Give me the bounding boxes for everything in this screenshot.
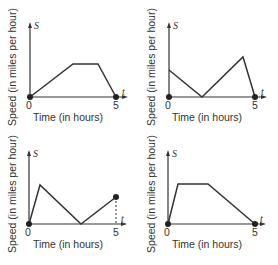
- graph-bottom-right: S t 0 5 Time (in hours) Speed (in miles …: [139, 132, 278, 264]
- y-axis-label: Speed (in miles per hour): [6, 135, 18, 253]
- x-tick-5: 5: [252, 99, 258, 111]
- x-tick-5: 5: [252, 226, 258, 238]
- x-variable: t: [121, 213, 124, 224]
- x-variable: t: [260, 213, 263, 224]
- x-tick-0: 0: [165, 99, 171, 111]
- x-axis-label: Time (in hours): [172, 238, 242, 250]
- y-variable: S: [33, 148, 38, 159]
- y-axis-label: Speed (in miles per hour): [6, 8, 18, 126]
- y-variable: S: [173, 20, 178, 31]
- x-tick-0: 0: [26, 99, 32, 111]
- y-variable: S: [34, 20, 39, 31]
- x-axis-label: Time (in hours): [33, 238, 103, 250]
- graph-bottom-left: S t 0 5 Time (in hours) Speed (in miles …: [0, 132, 139, 264]
- y-axis-label: Speed (in miles per hour): [145, 135, 157, 253]
- graph-top-right: S t 0 5 Time (in hours) Speed (in miles …: [139, 0, 278, 132]
- x-axis-label: Time (in hours): [172, 111, 242, 123]
- x-tick-0: 0: [25, 226, 31, 238]
- x-variable: t: [122, 86, 125, 97]
- x-tick-5: 5: [113, 226, 119, 238]
- x-axis-label: Time (in hours): [33, 111, 103, 123]
- x-tick-5: 5: [113, 99, 119, 111]
- y-axis-label: Speed (in miles per hour): [145, 8, 157, 126]
- y-variable: S: [172, 148, 177, 159]
- x-variable: t: [261, 86, 264, 97]
- x-tick-0: 0: [164, 226, 170, 238]
- graph-top-left: S t 0 5 Time (in hours) Speed (in miles …: [0, 0, 139, 132]
